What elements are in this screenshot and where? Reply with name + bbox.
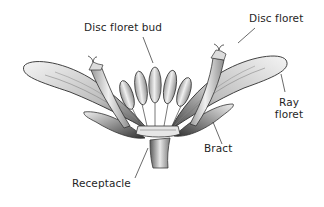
- leader-disc-floret: [238, 28, 255, 43]
- label-disc-floret: Disc floret: [249, 12, 303, 24]
- receptacle: [136, 126, 180, 137]
- leader-bract: [213, 122, 222, 144]
- leader-disc-floret-bud: [143, 37, 153, 63]
- label-ray-floret-line2: floret: [272, 108, 306, 120]
- label-receptacle: Receptacle: [72, 177, 131, 189]
- stem: [150, 138, 170, 168]
- label-bract: Bract: [204, 142, 232, 154]
- leader-receptacle: [135, 148, 148, 178]
- label-ray-floret-line1: Ray: [272, 96, 306, 108]
- label-ray-floret: Ray floret: [272, 96, 306, 120]
- leader-ray-floret: [281, 74, 285, 92]
- label-disc-floret-bud: Disc floret bud: [84, 21, 162, 33]
